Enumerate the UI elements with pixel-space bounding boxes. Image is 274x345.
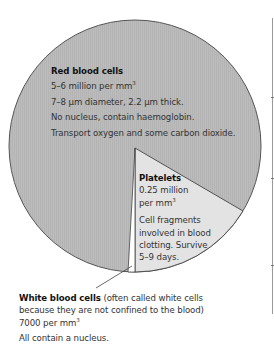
platelets-count-2: per mm3 (139, 197, 211, 209)
red-cells-size: 7–8 µm diameter, 2.2 µm thick. (51, 96, 235, 108)
white-cells-nucleus: All contain a nucleus. (19, 332, 204, 344)
white-cells-count: 7000 per mm3 (19, 317, 204, 329)
margin-tick (271, 265, 274, 266)
platelets-desc-3: clotting. Survive (139, 239, 211, 251)
platelets-desc-1: Cell fragments (139, 214, 211, 226)
white-cells-title: White blood cells (19, 293, 101, 303)
platelets-desc-2: involved in blood (139, 227, 211, 239)
red-cells-function: Transport oxygen and some carbon dioxide… (51, 127, 235, 139)
margin-tick (271, 178, 274, 179)
white-cells-note: (often called white cells (101, 293, 203, 303)
white-blood-cells-label: White blood cells (often called white ce… (19, 292, 204, 345)
page-margin-rule (272, 18, 273, 314)
white-cells-note-2: because they are not confined to the blo… (19, 304, 204, 316)
platelets-count-1: 0.25 million (139, 184, 211, 196)
platelets-desc-4: 5–9 days. (139, 251, 211, 263)
margin-tick (271, 97, 274, 98)
red-cells-title: Red blood cells (51, 66, 123, 76)
platelets-title: Platelets (139, 173, 181, 183)
red-cells-nucleus: No nucleus, contain haemoglobin. (51, 111, 235, 123)
platelets-label: Platelets 0.25 million per mm3 Cell frag… (139, 172, 211, 264)
red-blood-cells-label: Red blood cells 5–6 million per mm3 7–8 … (51, 65, 235, 139)
red-cells-count: 5–6 million per mm3 (51, 80, 235, 92)
